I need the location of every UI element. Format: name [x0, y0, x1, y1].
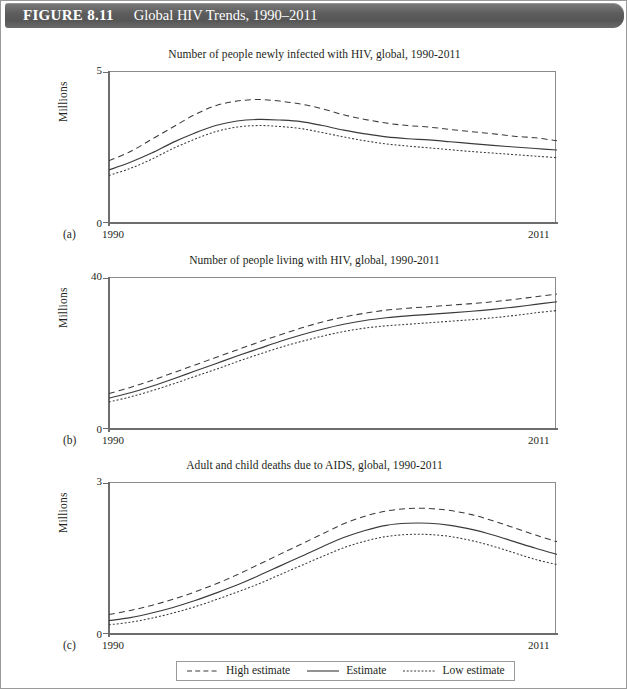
chart-c-y-axis-label: Millions	[57, 492, 69, 533]
chart-b-plot-area	[108, 277, 556, 430]
chart-a-panel-letter: (a)	[63, 228, 76, 240]
chart-c-series-low-estimate	[109, 534, 557, 625]
chart-a-y-axis-label: Millions	[57, 81, 69, 122]
chart-c-title: Adult and child deaths due to AIDS, glob…	[1, 459, 627, 471]
legend-label-estimate: Estimate	[346, 665, 386, 677]
figure-banner: FIGURE 8.11 Global HIV Trends, 1990–2011	[5, 3, 624, 28]
chart-a-series-svg	[109, 72, 557, 225]
chart-a-x-start-label: 1990	[102, 228, 124, 240]
chart-a-plot-area	[108, 71, 556, 224]
legend-swatch-dotted-icon	[402, 667, 436, 675]
chart-a-series-estimate	[109, 119, 557, 170]
figure-title: Global HIV Trends, 1990–2011	[114, 7, 318, 24]
chart-b-y-max-label: 40	[62, 270, 102, 282]
chart-b-series-estimate	[109, 302, 557, 398]
chart-c-y-max-label: 3	[62, 475, 102, 487]
chart-a-x-end-label: 2011	[528, 228, 550, 240]
chart-c-series-estimate	[109, 523, 557, 621]
chart-b-series-low-estimate	[109, 311, 557, 402]
chart-b-x-start-label: 1990	[102, 434, 124, 446]
chart-c-plot-area	[108, 482, 556, 635]
legend-item-estimate: Estimate	[306, 665, 386, 677]
chart-panel-b: Number of people living with HIV, global…	[1, 252, 627, 452]
legend-swatch-dashed-icon	[186, 667, 220, 675]
chart-a-title: Number of people newly infected with HIV…	[1, 48, 627, 60]
legend-label-high: High estimate	[226, 665, 290, 677]
chart-c-x-start-label: 1990	[102, 639, 124, 651]
legend-label-low: Low estimate	[442, 665, 504, 677]
chart-b-x-end-label: 2011	[528, 434, 550, 446]
chart-c-series-high-estimate	[109, 508, 557, 614]
figure-page: FIGURE 8.11 Global HIV Trends, 1990–2011…	[0, 0, 627, 689]
chart-panel-c: Adult and child deaths due to AIDS, glob…	[1, 457, 627, 657]
chart-a-series-high-estimate	[109, 100, 557, 161]
legend-swatch-solid-icon	[306, 667, 340, 675]
chart-c-panel-letter: (c)	[63, 639, 76, 651]
chart-c-x-end-label: 2011	[528, 639, 550, 651]
chart-b-title: Number of people living with HIV, global…	[1, 254, 627, 266]
chart-b-panel-letter: (b)	[63, 434, 76, 446]
figure-number: FIGURE 8.11	[5, 7, 114, 24]
chart-b-series-high-estimate	[109, 294, 557, 393]
chart-c-series-svg	[109, 483, 557, 636]
legend-item-low: Low estimate	[402, 665, 504, 677]
chart-b-series-svg	[109, 278, 557, 431]
chart-panel-a: Number of people newly infected with HIV…	[1, 46, 627, 246]
chart-a-series-low-estimate	[109, 126, 557, 176]
legend-item-high: High estimate	[186, 665, 290, 677]
chart-b-y-axis-label: Millions	[57, 287, 69, 328]
chart-a-y-max-label: 5	[62, 64, 102, 76]
chart-legend: High estimate Estimate Low estimate	[176, 661, 515, 681]
